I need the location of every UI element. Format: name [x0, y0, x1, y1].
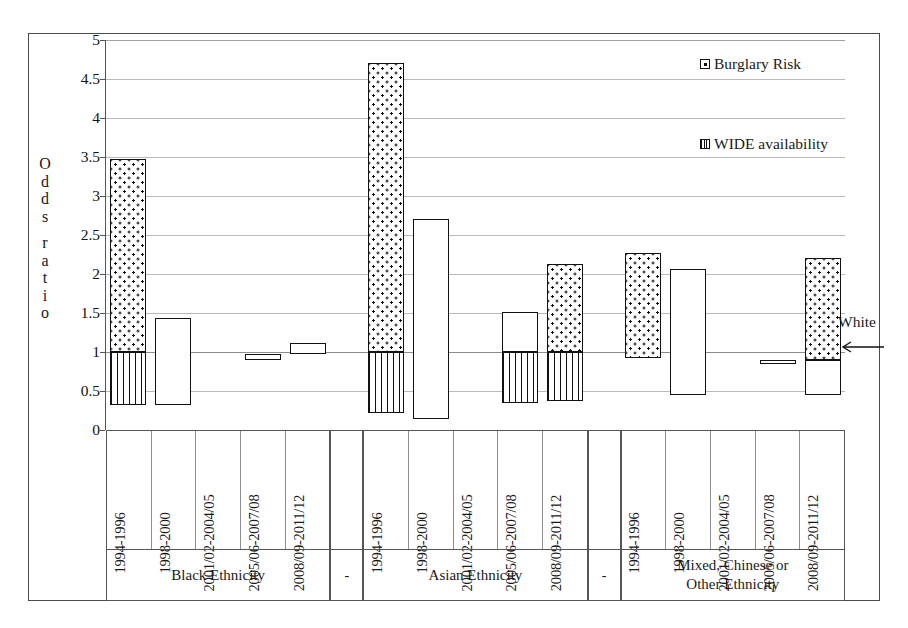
- x-axis-separator-label: -: [589, 549, 620, 600]
- y-axis-tick-label: 0: [58, 421, 100, 439]
- x-axis-category-cell: 2005/06-2007/08: [241, 431, 286, 549]
- x-axis-group: 1994-19961998-20002001/02-2004/052005/06…: [106, 431, 330, 600]
- y-axis-tick-label: 0.5: [58, 382, 100, 400]
- x-axis-group: 1994-19961998-20002001/02-2004/052005/06…: [621, 431, 845, 600]
- reference-line: [106, 352, 845, 353]
- bar-segment-risk: [625, 253, 661, 358]
- gridline: [106, 274, 845, 275]
- bar-segment-plain: [290, 343, 326, 355]
- x-axis-category-cell: 1994-1996: [622, 431, 667, 549]
- bar-segment-wide: [547, 352, 583, 401]
- x-axis-separator-column: -: [588, 431, 621, 600]
- x-axis-bottom-line: [106, 600, 845, 601]
- y-axis-tick-label: 3.5: [58, 148, 100, 166]
- bar-segment-plain: [502, 312, 538, 352]
- x-axis-category-cell: 2005/06-2007/08: [498, 431, 543, 549]
- left-arrow-icon: [838, 340, 886, 354]
- bar-segment-wide: [368, 352, 404, 413]
- x-axis-separator-label: -: [331, 549, 362, 600]
- bar-segment-risk: [547, 264, 583, 352]
- gridline: [106, 157, 845, 158]
- x-axis-category-cell: 2001/02-2004/05: [711, 431, 756, 549]
- legend-item-burglary-risk: Burglary Risk: [700, 55, 801, 73]
- gridline: [106, 235, 845, 236]
- bar-segment-wide: [502, 352, 538, 403]
- legend-label: WIDE availability: [714, 135, 828, 153]
- x-axis-category-cell: 1994-1996: [107, 431, 152, 549]
- legend-swatch-striped-icon: [700, 139, 710, 149]
- y-axis-tick-labels: 00.511.522.533.544.55: [52, 40, 100, 430]
- x-axis-table: 1994-19961998-20002001/02-2004/052005/06…: [106, 430, 845, 600]
- bar-segment-plain: [413, 219, 449, 419]
- gridline: [106, 196, 845, 197]
- x-axis-category-cells: 1994-19961998-20002001/02-2004/052005/06…: [364, 431, 586, 549]
- y-axis-tick-label: 5: [58, 31, 100, 49]
- y-axis-tick-label: 1: [58, 343, 100, 361]
- x-axis-group-label: Asian Ethnicity: [364, 549, 586, 600]
- gridline: [106, 391, 845, 392]
- legend-label: Burglary Risk: [714, 55, 801, 73]
- legend-swatch-dotted-icon: [700, 59, 710, 69]
- white-reference-label: White: [838, 313, 876, 331]
- y-axis-tick-mark: [100, 430, 105, 431]
- legend-item-wide-availability: WIDE availability: [700, 135, 828, 153]
- y-axis-tick-label: 4: [58, 109, 100, 127]
- bar-segment-plain: [155, 318, 191, 405]
- x-axis-group-label: Black Ethnicity: [107, 549, 329, 600]
- bar-segment-risk: [805, 258, 841, 359]
- gridline: [106, 40, 845, 41]
- x-axis-category-cells: 1994-19961998-20002001/02-2004/052005/06…: [107, 431, 329, 549]
- bar-segment-wide: [110, 352, 146, 405]
- x-axis-category-cell: 1998-2000: [666, 431, 711, 549]
- x-axis-category-cell: 2008/09-2011/12: [543, 431, 587, 549]
- y-axis-tick-label: 3: [58, 187, 100, 205]
- y-axis-tick-label: 2.5: [58, 226, 100, 244]
- x-axis-category-cell: 1998-2000: [152, 431, 197, 549]
- bar-segment-plain: [670, 269, 706, 395]
- gridline: [106, 79, 845, 80]
- x-axis-group: 1994-19961998-20002001/02-2004/052005/06…: [363, 431, 587, 600]
- x-axis-category-cell: 2001/02-2004/05: [454, 431, 499, 549]
- bar-segment-plain: [760, 360, 796, 365]
- x-axis-category-cell: 1998-2000: [409, 431, 454, 549]
- x-axis-category-cell: 2005/06-2007/08: [756, 431, 801, 549]
- x-axis-group-label: Mixed, Chinese orOther Ethnicity: [622, 549, 844, 600]
- x-axis-category-cell: 2001/02-2004/05: [196, 431, 241, 549]
- x-axis-category-cell: 2008/09-2011/12: [800, 431, 844, 549]
- gridline: [106, 313, 845, 314]
- y-axis-tick-label: 1.5: [58, 304, 100, 322]
- x-axis-category-cell: 1994-1996: [364, 431, 409, 549]
- x-axis-separator-column: -: [330, 431, 363, 600]
- y-axis-tick-label: 2: [58, 265, 100, 283]
- y-axis-tick-label: 4.5: [58, 70, 100, 88]
- bar-segment-plain: [245, 354, 281, 359]
- x-axis-category-cells: 1994-19961998-20002001/02-2004/052005/06…: [622, 431, 844, 549]
- gridline: [106, 118, 845, 119]
- bar-segment-plain: [805, 360, 841, 395]
- x-axis-category-cell: 2008/09-2011/12: [286, 431, 330, 549]
- plot-area: [106, 40, 845, 430]
- bar-segment-risk: [110, 159, 146, 352]
- bar-segment-risk: [368, 63, 404, 352]
